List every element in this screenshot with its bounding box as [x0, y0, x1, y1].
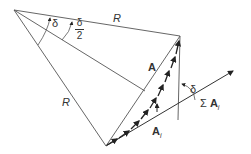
radius-left-label: R [62, 97, 70, 108]
vertical-line [178, 36, 180, 120]
radius-left-line [14, 10, 106, 146]
angle-half-delta-label: δ 2 [75, 18, 84, 41]
angle-half-delta-arc [62, 22, 72, 40]
angle-delta-right-label: δ [190, 84, 196, 95]
phasor-arc-diagram: R R δ δ 2 A δ Σ Ai Ai [0, 0, 251, 154]
sum-vector-label: Σ Ai [200, 98, 219, 111]
diagram-lines [0, 0, 251, 154]
element-vector-label: Ai [152, 126, 162, 139]
radius-top-label: R [113, 13, 121, 24]
element-vectors [107, 41, 179, 145]
chord-label: A [148, 62, 156, 73]
chord-line [106, 36, 180, 146]
angle-delta-label: δ [52, 18, 58, 29]
radius-top-line [14, 10, 180, 36]
